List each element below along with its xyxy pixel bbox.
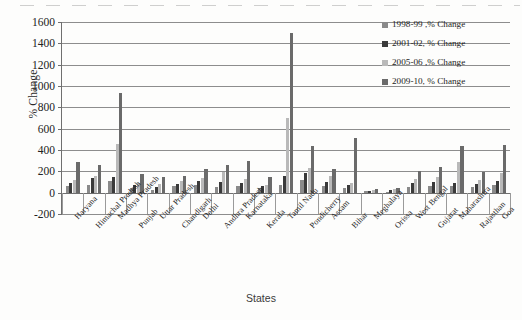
bar bbox=[503, 145, 506, 193]
bar bbox=[418, 171, 421, 193]
legend-label: 2005-06 ,% Change bbox=[392, 58, 465, 67]
bar-group bbox=[361, 22, 382, 214]
category-separator bbox=[62, 193, 63, 214]
y-tick-label: 800 bbox=[38, 101, 55, 113]
legend-item: 2001-02, % Change bbox=[382, 34, 465, 53]
bar-group bbox=[83, 22, 104, 214]
legend-label: 2009-10, % Change bbox=[392, 77, 465, 86]
bar bbox=[76, 162, 79, 193]
x-axis-title: States bbox=[0, 292, 522, 304]
legend-label: 2001-02, % Change bbox=[392, 39, 465, 48]
bar-group bbox=[318, 22, 339, 214]
legend-swatch-icon bbox=[382, 41, 388, 47]
y-tick-label: 400 bbox=[38, 144, 55, 156]
y-axis-title: % Change bbox=[27, 34, 39, 154]
bar bbox=[354, 138, 357, 192]
bar bbox=[290, 33, 293, 193]
legend-swatch-icon bbox=[382, 60, 388, 66]
legend-label: 1998-99 ,% Change bbox=[392, 20, 465, 29]
bar-group bbox=[211, 22, 232, 214]
x-axis-tick-labels: HaryanaHimachal PradeshMadhya PradeshPun… bbox=[62, 214, 510, 290]
bar-group bbox=[105, 22, 126, 214]
scan-artifact-line bbox=[20, 5, 520, 6]
legend-item: 1998-99 ,% Change bbox=[382, 15, 465, 34]
bar bbox=[247, 161, 250, 193]
bar bbox=[332, 169, 335, 192]
y-tick-label: 1600 bbox=[32, 16, 55, 28]
y-tick-label: 600 bbox=[38, 123, 55, 135]
bar-group bbox=[489, 22, 510, 214]
legend-swatch-icon bbox=[382, 79, 388, 85]
y-tick-label: 1200 bbox=[32, 59, 55, 71]
bar bbox=[204, 169, 207, 192]
bar bbox=[375, 189, 378, 193]
y-tick-label: 200 bbox=[38, 165, 55, 177]
bar-group bbox=[233, 22, 254, 214]
bar bbox=[98, 165, 101, 192]
bar bbox=[226, 165, 229, 193]
legend-swatch-icon bbox=[382, 22, 388, 28]
legend: 1998-99 ,% Change2001-02, % Change2005-0… bbox=[382, 15, 465, 91]
y-tick-label: 1400 bbox=[32, 37, 55, 49]
bar bbox=[460, 146, 463, 193]
bar-group bbox=[339, 22, 360, 214]
x-tick-label: Bihar bbox=[350, 210, 369, 230]
y-tick-label: -200 bbox=[34, 208, 55, 220]
bar-group bbox=[62, 22, 83, 214]
bar bbox=[162, 177, 165, 192]
legend-item: 2009-10, % Change bbox=[382, 72, 465, 91]
bar-chart: % Change -200020040060080010001200140016… bbox=[0, 0, 522, 320]
y-tick-label: 0 bbox=[49, 187, 55, 199]
bar bbox=[119, 93, 122, 192]
legend-item: 2005-06 ,% Change bbox=[382, 53, 465, 72]
y-tick-label: 1000 bbox=[32, 80, 55, 92]
bar-group bbox=[297, 22, 318, 214]
bar-group bbox=[275, 22, 296, 214]
